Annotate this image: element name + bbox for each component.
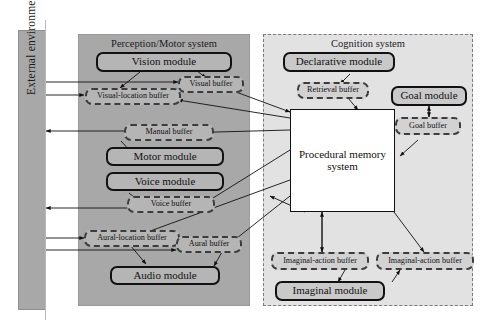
external-environment-label: External environment: [18, 0, 44, 182]
node-manual-buffer[interactable]: Manual buffer: [124, 124, 214, 141]
node-goal-buffer[interactable]: Goal buffer: [395, 117, 461, 135]
node-procedural-memory-system[interactable]: Procedural memory system: [290, 109, 395, 212]
node-motor-module[interactable]: Motor module: [106, 147, 224, 166]
node-audio-module[interactable]: Audio module: [110, 266, 220, 285]
perception-motor-panel-title: Perception/Motor system: [79, 38, 249, 49]
cognition-panel-title: Cognition system: [264, 38, 472, 49]
procedural-memory-line-2: system: [327, 161, 358, 173]
node-goal-module[interactable]: Goal module: [391, 86, 467, 106]
node-vision-module[interactable]: Vision module: [96, 52, 232, 72]
node-visual-location-buffer[interactable]: Visual-location buffer: [85, 88, 181, 105]
node-aural-buffer[interactable]: Aural buffer: [176, 236, 242, 253]
node-aural-location-buffer[interactable]: Aural-location buffer: [84, 230, 180, 247]
node-voice-module[interactable]: Voice module: [106, 172, 224, 191]
node-imaginal-module[interactable]: Imaginal module: [275, 281, 385, 301]
node-visual-buffer[interactable]: Visual buffer: [178, 76, 244, 93]
node-retrieval-buffer[interactable]: Retrieval buffer: [297, 82, 369, 99]
node-declarative-module[interactable]: Declarative module: [283, 52, 395, 72]
procedural-memory-line-1: Procedural memory: [299, 149, 386, 161]
node-voice-buffer[interactable]: Voice buffer: [127, 196, 215, 213]
environment-divider-rule: [45, 20, 46, 320]
architecture-diagram: External environment Perception/Motor sy…: [0, 0, 482, 329]
node-imaginal-action-buffer-right[interactable]: Imaginal-action buffer: [376, 252, 474, 270]
node-imaginal-action-buffer-left[interactable]: Imaginal-action buffer: [271, 252, 369, 270]
